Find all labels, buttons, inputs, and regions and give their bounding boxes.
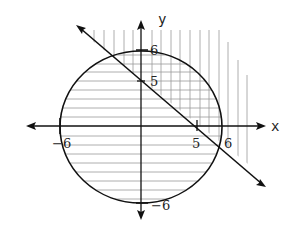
- tick-label-x-neg6: −6: [52, 136, 71, 151]
- y-axis-label: y: [158, 11, 166, 27]
- tick-label-x-6: 6: [224, 136, 232, 151]
- line-hatching: [94, 30, 247, 175]
- circle-hatching: [50, 55, 240, 199]
- tick-label-x-5: 5: [192, 136, 200, 151]
- tick-label-y-5: 5: [150, 74, 158, 89]
- x-axis-label: x: [271, 118, 279, 134]
- tick-label-y-neg6: −6: [151, 198, 170, 213]
- tick-label-y-6: 6: [150, 43, 158, 58]
- graph-diagram: x y 6 5 −6 −6 5 6: [0, 0, 295, 234]
